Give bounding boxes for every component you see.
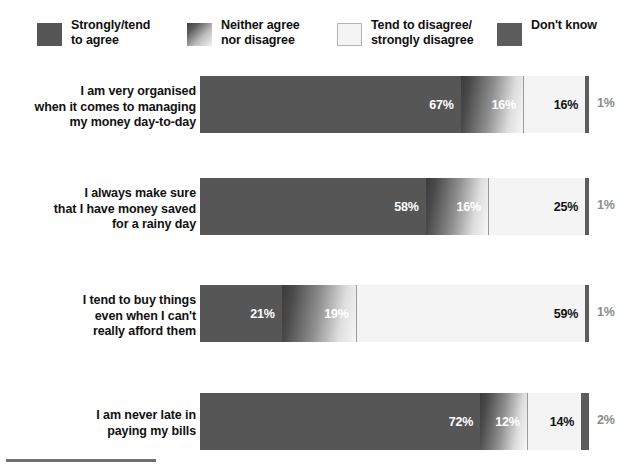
bar-segment-neither[interactable]: 16% bbox=[426, 178, 488, 235]
segment-value: 58% bbox=[394, 200, 425, 214]
dont-know-outside-value: 1% bbox=[597, 198, 615, 212]
bar-segment-neither[interactable]: 16% bbox=[461, 76, 523, 133]
row-label: I always make sure that I have money sav… bbox=[0, 186, 196, 233]
dont-know-outside-value: 1% bbox=[597, 305, 615, 319]
footer-divider bbox=[6, 459, 156, 462]
dont-know-outside-value: 2% bbox=[597, 413, 615, 427]
bar-segment-neither[interactable]: 19% bbox=[282, 285, 356, 342]
segment-value: 72% bbox=[449, 415, 480, 429]
bar-segment-agree[interactable]: 21% bbox=[200, 285, 282, 342]
row-label: I am never late in paying my bills bbox=[0, 408, 196, 439]
segment-value: 14% bbox=[550, 415, 581, 429]
row-label: I tend to buy things even when I can't r… bbox=[0, 293, 196, 340]
segment-value: 25% bbox=[554, 200, 585, 214]
stacked-bar: 21% 19% 59% 1% bbox=[200, 285, 589, 342]
segment-value: 16% bbox=[491, 98, 522, 112]
bar-segment-agree[interactable]: 72% bbox=[200, 393, 480, 450]
segment-value: 21% bbox=[250, 307, 281, 321]
bar-segment-disagree[interactable]: 14% bbox=[527, 393, 581, 450]
bar-segment-dont-know[interactable]: 1% bbox=[585, 285, 589, 342]
chart-row: I am very organised when it comes to man… bbox=[0, 76, 634, 133]
segment-value: 67% bbox=[429, 98, 460, 112]
row-label: I am very organised when it comes to man… bbox=[0, 84, 196, 131]
segment-value: 59% bbox=[554, 307, 585, 321]
segment-value: 12% bbox=[495, 415, 526, 429]
segment-value: 19% bbox=[324, 307, 355, 321]
chart-row: I am never late in paying my bills 72% 1… bbox=[0, 393, 634, 450]
bar-segment-neither[interactable]: 12% bbox=[480, 393, 527, 450]
bar-segment-dont-know[interactable]: 1% bbox=[585, 76, 589, 133]
bar-segment-disagree[interactable]: 25% bbox=[488, 178, 585, 235]
segment-value: 16% bbox=[554, 98, 585, 112]
bar-segment-disagree[interactable]: 59% bbox=[356, 285, 586, 342]
chart-row: I always make sure that I have money sav… bbox=[0, 178, 634, 235]
segment-value: 16% bbox=[456, 200, 487, 214]
stacked-bar: 72% 12% 14% 2% bbox=[200, 393, 589, 450]
stacked-bar-chart: I am very organised when it comes to man… bbox=[0, 0, 634, 472]
chart-row: I tend to buy things even when I can't r… bbox=[0, 285, 634, 342]
stacked-bar: 58% 16% 25% 1% bbox=[200, 178, 589, 235]
bar-segment-dont-know[interactable]: 1% bbox=[585, 178, 589, 235]
stacked-bar: 67% 16% 16% 1% bbox=[200, 76, 589, 133]
bar-segment-agree[interactable]: 58% bbox=[200, 178, 426, 235]
bar-segment-disagree[interactable]: 16% bbox=[523, 76, 585, 133]
bar-segment-dont-know[interactable]: 2% bbox=[581, 393, 589, 450]
dont-know-outside-value: 1% bbox=[597, 96, 615, 110]
bar-segment-agree[interactable]: 67% bbox=[200, 76, 461, 133]
